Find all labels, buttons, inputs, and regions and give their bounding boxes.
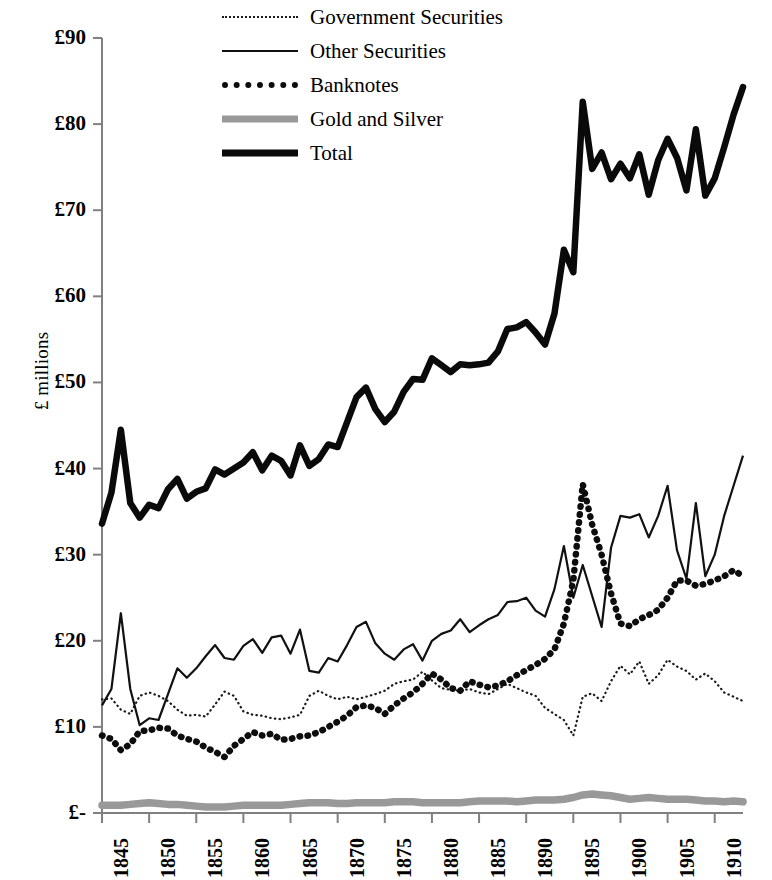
legend-item-label: Banknotes <box>310 73 399 98</box>
legend-swatch-icon <box>222 111 298 127</box>
chart-container: £ millions £90£80£70£60£50£40£30£20£10£-… <box>0 0 772 880</box>
chart-legend: Government SecuritiesOther SecuritiesBan… <box>222 0 562 170</box>
legend-swatch-icon <box>222 43 298 59</box>
series-government-securities <box>102 660 743 736</box>
legend-swatch-icon <box>222 9 298 25</box>
legend-item-government-securities[interactable]: Government Securities <box>222 0 562 34</box>
legend-swatch-icon <box>222 145 298 161</box>
legend-item-label: Gold and Silver <box>310 107 443 132</box>
legend-item-label: Government Securities <box>310 5 503 30</box>
legend-item-gold-and-silver[interactable]: Gold and Silver <box>222 102 562 136</box>
legend-item-banknotes[interactable]: Banknotes <box>222 68 562 102</box>
legend-item-total[interactable]: Total <box>222 136 562 170</box>
series-banknotes <box>102 484 743 757</box>
legend-item-label: Total <box>310 141 353 166</box>
legend-swatch-icon <box>222 77 298 93</box>
legend-item-label: Other Securities <box>310 39 446 64</box>
series-gold-and-silver <box>102 794 743 807</box>
legend-item-other-securities[interactable]: Other Securities <box>222 34 562 68</box>
